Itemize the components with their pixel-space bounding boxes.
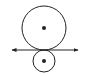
tangent-circles-diagram	[0, 0, 87, 77]
small-circle-center-dot	[42, 59, 46, 63]
large-circle-center-dot	[42, 26, 46, 30]
